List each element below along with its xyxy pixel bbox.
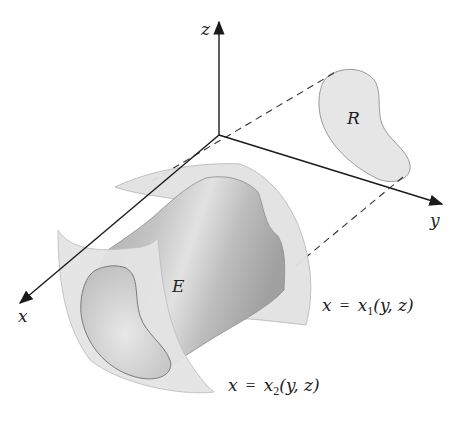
z-axis-label: z — [200, 19, 211, 39]
solid-label-e: E — [171, 276, 185, 296]
x-axis-label: x — [18, 306, 28, 326]
projection-line-bottom — [293, 177, 403, 268]
surface-x1-equation: x = x1(y, z) — [322, 295, 414, 318]
triple-integral-diagram: z y R x E x = x1(y, z) x = x2(y, z) — [0, 0, 476, 425]
y-axis-label: y — [429, 210, 440, 230]
surface-x2-equation: x = x2(y, z) — [228, 375, 320, 398]
region-label-r: R — [346, 108, 360, 128]
projection-region-r — [319, 69, 410, 181]
